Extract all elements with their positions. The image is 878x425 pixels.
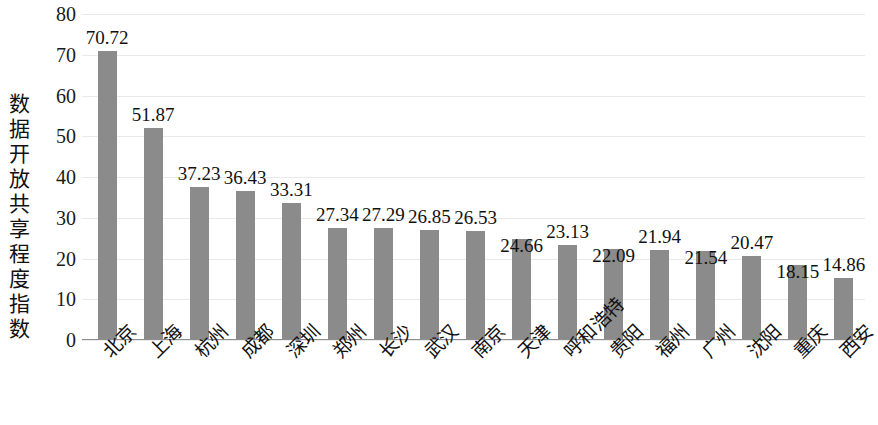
bar-value-label: 20.47	[724, 233, 780, 252]
bar	[190, 187, 209, 339]
gridline	[82, 96, 865, 97]
bar-value-label: 26.53	[448, 208, 504, 227]
bar	[328, 228, 347, 339]
y-tick-label: 40	[36, 167, 76, 187]
bar	[374, 228, 393, 339]
bar	[466, 231, 485, 339]
bar-value-label: 33.31	[263, 180, 319, 199]
gridline	[82, 55, 865, 56]
bar	[282, 203, 301, 339]
y-tick-label: 20	[36, 249, 76, 269]
y-tick-label: 30	[36, 208, 76, 228]
gridline	[82, 14, 865, 15]
bar	[144, 128, 163, 339]
bar-value-label: 70.72	[79, 28, 135, 47]
y-tick-label: 50	[36, 126, 76, 146]
bar-value-label: 22.09	[586, 246, 642, 265]
bar	[420, 230, 439, 339]
bar	[558, 245, 577, 339]
bar-value-label: 23.13	[540, 222, 596, 241]
y-tick-label: 70	[36, 45, 76, 65]
y-tick-label: 0	[36, 330, 76, 350]
y-tick-label: 80	[36, 4, 76, 24]
x-axis-category-labels: 北京上海杭州成都深圳郑州长沙武汉南京天津呼和浩特贵阳福州广州沈阳重庆西安	[82, 341, 865, 425]
bar-value-label: 21.94	[632, 227, 688, 246]
y-axis-tick-labels: 80706050403020100	[34, 0, 76, 425]
bar	[236, 191, 255, 339]
bar	[98, 51, 117, 339]
bar-value-label: 51.87	[125, 105, 181, 124]
plot-area: 70.7251.8737.2336.4333.3127.3427.2926.85…	[82, 14, 865, 340]
bar-value-label: 14.86	[816, 255, 872, 274]
bar	[650, 250, 669, 339]
y-axis-title: 数据开放共享程度指数	[2, 92, 36, 342]
y-tick-label: 60	[36, 86, 76, 106]
bar	[742, 256, 761, 339]
gridline	[82, 136, 865, 137]
y-tick-label: 10	[36, 289, 76, 309]
